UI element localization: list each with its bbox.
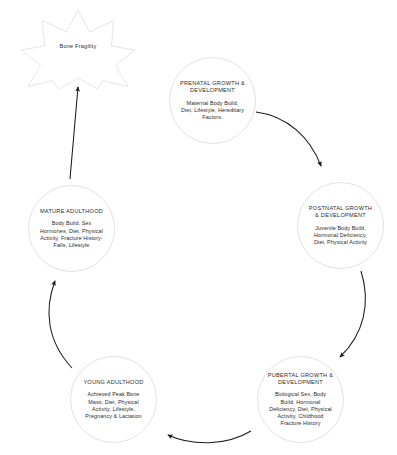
edge-mature-adulthood-to-bone-fragility: [70, 87, 78, 179]
node-mature-adulthood[interactable]: MATURE ADULTHOOD Body Build, Sex Hormone…: [28, 185, 115, 272]
node-young-adulthood-body: Achieved Peak Bone Mass, Diet, Physical …: [79, 391, 147, 420]
node-young-adulthood-title: YOUNG ADULTHOOD: [79, 379, 147, 386]
node-mature-adulthood-body: Body Build, Sex Hormones, Diet, Physical…: [34, 220, 109, 249]
node-prenatal-body: Maternal Body Build, Diet, Lifestyle, He…: [175, 100, 250, 122]
edge-young-adulthood-to-mature-adulthood: [49, 281, 72, 368]
edge-prenatal-to-postnatal: [256, 112, 321, 166]
node-postnatal-body: Juvenile Body Build, Hormonal Deficiency…: [308, 225, 373, 247]
bone-fragility-label: Bone Fragility: [18, 42, 138, 50]
node-prenatal[interactable]: PRENATAL GROWTH & DEVELOPMENT Maternal B…: [169, 57, 256, 144]
node-postnatal-title: POSTNATAL GROWTH & DEVELOPMENT: [305, 205, 376, 220]
diagram-canvas: Bone Fragility PRENATAL GROWTH & DEVELOP…: [0, 0, 397, 455]
edge-pubertal-to-young-adulthood: [168, 431, 251, 443]
node-young-adulthood[interactable]: YOUNG ADULTHOOD Achieved Peak Bone Mass,…: [70, 356, 157, 443]
node-pubertal-body: Biological Sex, Body Build, Hormonal Def…: [263, 391, 338, 427]
node-mature-adulthood-title: MATURE ADULTHOOD: [36, 208, 107, 215]
node-postnatal[interactable]: POSTNATAL GROWTH & DEVELOPMENT Juvenile …: [297, 182, 384, 269]
node-pubertal-title: PUBERTAL GROWTH & DEVELOPMENT: [264, 372, 337, 387]
edge-postnatal-to-pubertal: [340, 271, 365, 357]
node-prenatal-title: PRENATAL GROWTH & DEVELOPMENT: [176, 80, 249, 95]
node-pubertal[interactable]: PUBERTAL GROWTH & DEVELOPMENT Biological…: [257, 356, 344, 443]
bone-fragility-star: Bone Fragility: [18, 8, 138, 90]
